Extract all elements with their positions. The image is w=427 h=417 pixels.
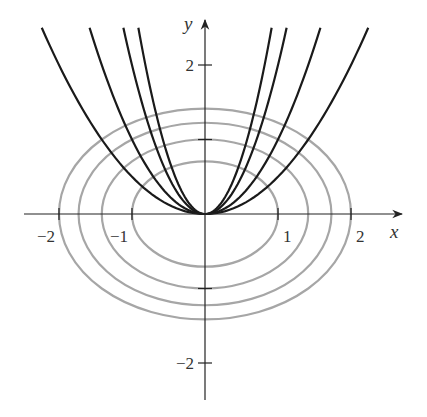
- x-tick-label: 1: [283, 227, 292, 246]
- x-tick-label: 2: [356, 227, 365, 246]
- x-axis-label: x: [389, 221, 399, 242]
- x-tick-label: −1: [110, 227, 128, 246]
- chart-canvas: −2−1122−2 x y: [0, 0, 427, 417]
- x-tick-label: −2: [37, 227, 55, 246]
- y-axis-label: y: [182, 13, 193, 34]
- y-tick-label: −2: [176, 354, 194, 373]
- y-tick-label: 2: [186, 56, 195, 75]
